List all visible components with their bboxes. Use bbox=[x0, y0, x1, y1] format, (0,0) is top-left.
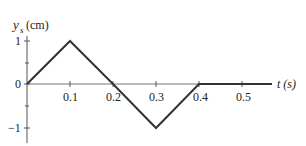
y-axis-label: y bbox=[11, 17, 19, 32]
x-tick-label-0.5: 0.5 bbox=[236, 90, 251, 104]
y-tick-label-1: 1 bbox=[15, 34, 21, 48]
triangle-pulse-chart: y s (cm) 1 0 −1 0.1 0.2 0.3 0.4 0.5 bbox=[0, 0, 306, 146]
y-tick-label-neg1: −1 bbox=[8, 121, 21, 135]
x-tick-label-0.1: 0.1 bbox=[63, 90, 78, 104]
y-axis-label-unit: (cm) bbox=[26, 18, 49, 32]
x-tick-label-0.3: 0.3 bbox=[149, 90, 164, 104]
x-axis-label: t (s) bbox=[277, 77, 296, 91]
x-tick-label-0.4: 0.4 bbox=[193, 90, 208, 104]
x-tick-label-0.2: 0.2 bbox=[106, 90, 121, 104]
y-tick-label-0: 0 bbox=[15, 77, 21, 91]
